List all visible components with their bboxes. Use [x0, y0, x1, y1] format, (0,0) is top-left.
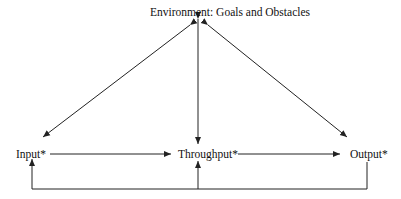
arrow-environment-output — [208, 25, 347, 137]
node-throughput: Throughput* — [178, 149, 238, 161]
systems-diagram: Environment: Goals and Obstacles Input* … — [0, 0, 401, 199]
feedback-loop-line — [32, 162, 367, 189]
node-environment: Environment: Goals and Obstacles — [150, 7, 310, 19]
node-output: Output* — [350, 149, 388, 161]
arrow-environment-input — [43, 25, 190, 137]
node-input: Input* — [16, 149, 46, 161]
diagram-arrows — [0, 0, 401, 199]
